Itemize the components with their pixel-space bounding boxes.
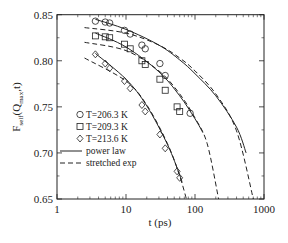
y-label-sub2: max <box>17 91 25 104</box>
legend-item: power law <box>60 146 126 156</box>
y-tick-label: 0.70 <box>34 147 54 159</box>
y-axis-label: Fself(Qmax,t) <box>10 82 25 132</box>
x-tick-label: 1000 <box>253 203 276 215</box>
diamond-marker <box>92 51 98 58</box>
legend-label: power law <box>86 146 126 156</box>
circle-marker <box>92 18 98 24</box>
legend-circle-icon <box>77 111 83 117</box>
y-tick-label: 0.75 <box>34 101 54 113</box>
legend-label: stretched exp <box>86 158 137 168</box>
y-tick-label: 0.85 <box>34 9 54 21</box>
power-law-curve <box>95 19 246 153</box>
legend-label: T=213.6 K <box>86 134 128 144</box>
plot-frame <box>57 15 264 199</box>
chart: 11010010000.650.700.750.800.85 T=206.3 K… <box>0 0 288 243</box>
diamond-marker <box>139 102 145 109</box>
axis-ticks: 11010010000.650.700.750.800.85 <box>34 9 276 215</box>
diamond-marker <box>142 108 148 115</box>
legend-item: T=213.6 K <box>77 134 128 144</box>
legend: T=206.3 KT=209.3 KT=213.6 Kpower lawstre… <box>60 110 137 168</box>
x-axis-label: t (ps) <box>149 216 172 229</box>
y-tick-label: 0.65 <box>34 193 54 205</box>
svg-text:Fself(Qmax,t): Fself(Qmax,t) <box>10 82 25 132</box>
square-marker <box>162 87 168 93</box>
legend-item: stretched exp <box>60 158 137 168</box>
legend-item: T=206.3 K <box>77 110 128 120</box>
x-tick-label: 100 <box>187 203 204 215</box>
circle-marker <box>157 60 163 66</box>
legend-item: T=209.3 K <box>77 122 128 132</box>
diamond-marker <box>162 145 168 152</box>
legend-label: T=206.3 K <box>86 110 128 120</box>
x-tick-label: 10 <box>121 203 133 215</box>
circle-marker <box>139 42 145 48</box>
plot-border <box>57 15 264 199</box>
legend-diamond-icon <box>77 135 83 142</box>
diamond-marker <box>157 131 163 138</box>
y-label-end: ,t) <box>10 82 23 92</box>
y-tick-label: 0.80 <box>34 55 54 67</box>
circle-marker <box>142 46 148 52</box>
y-label-rest: (Q <box>10 104 23 116</box>
legend-label: T=209.3 K <box>86 122 128 132</box>
legend-square-icon <box>77 124 83 130</box>
x-tick-label: 1 <box>54 203 60 215</box>
